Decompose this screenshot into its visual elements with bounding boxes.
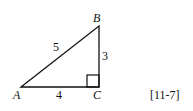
vertex-label-c: C xyxy=(93,89,101,101)
side-label-bc: 3 xyxy=(102,50,108,62)
vertex-label-b: B xyxy=(93,12,100,24)
side-label-ab: 5 xyxy=(53,41,59,53)
vertex-label-a: A xyxy=(13,89,20,101)
side-label-ac: 4 xyxy=(56,89,62,101)
figure-reference: [11-7] xyxy=(150,89,180,101)
right-angle-marker xyxy=(87,75,99,87)
